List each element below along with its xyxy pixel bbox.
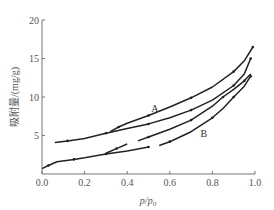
curve-label-B: B <box>201 128 208 139</box>
y-tick-label: 5 <box>34 130 39 141</box>
data-marker <box>147 146 150 149</box>
data-marker <box>232 84 235 87</box>
data-marker <box>105 132 108 135</box>
data-marker <box>147 114 150 117</box>
x-tick-label: 0.6 <box>164 177 177 188</box>
data-marker <box>252 46 255 49</box>
y-tick-label: 20 <box>29 15 39 26</box>
y-tick-label: 15 <box>29 53 39 64</box>
data-marker <box>66 140 69 143</box>
data-marker <box>190 96 193 99</box>
data-marker <box>147 136 150 139</box>
data-marker <box>147 123 150 126</box>
data-marker <box>190 109 193 112</box>
x-axis-label: p/p0 <box>139 195 157 208</box>
x-tick-label: 0.8 <box>206 177 219 188</box>
series-line-B-adsorption <box>42 147 149 169</box>
x-tick-label: 1.0 <box>249 177 262 188</box>
data-marker <box>190 119 193 122</box>
data-marker <box>211 116 214 119</box>
y-axis-label: 吸附量/(mg/g) <box>8 67 21 127</box>
data-marker <box>117 126 120 129</box>
data-marker <box>115 147 118 150</box>
series-group <box>42 46 254 169</box>
x-tick-label: 0.0 <box>36 177 49 188</box>
axes: 0.00.20.40.60.81.05101520 <box>29 15 261 189</box>
chart: 0.00.20.40.60.81.05101520 AB 吸附量/(mg/g) … <box>0 0 274 210</box>
y-tick-label: 10 <box>29 92 39 103</box>
curve-label-A: A <box>151 103 159 114</box>
data-marker <box>222 96 225 99</box>
data-marker <box>243 80 246 83</box>
data-marker <box>232 96 235 99</box>
data-marker <box>73 158 76 161</box>
data-marker <box>232 70 235 73</box>
data-marker <box>47 164 50 167</box>
x-tick-label: 0.2 <box>78 177 91 188</box>
series-line-A-adsorption <box>55 59 251 143</box>
x-tick-label: 0.4 <box>121 177 134 188</box>
data-marker <box>249 57 252 60</box>
series-line-A-desorption <box>110 47 253 132</box>
data-marker <box>169 140 172 143</box>
